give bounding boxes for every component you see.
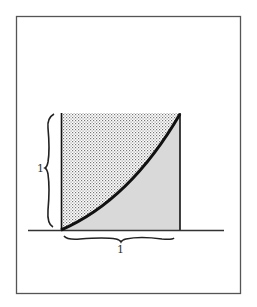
figure: 1 1 bbox=[0, 0, 257, 307]
horizontal-side-label: 1 bbox=[117, 243, 124, 256]
vertical-side-label: 1 bbox=[37, 162, 44, 175]
bottom-brace bbox=[64, 236, 174, 242]
left-brace bbox=[45, 114, 54, 227]
